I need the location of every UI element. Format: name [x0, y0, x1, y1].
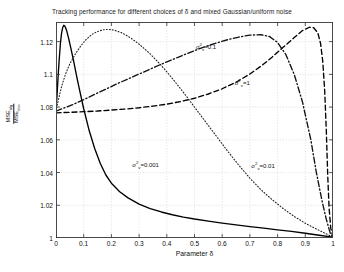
data-series-line: [56, 29, 333, 237]
y-axis-label-fraction: MSEalg MSEmin: [6, 103, 21, 124]
x-axis-tick-label: 0.7: [245, 240, 254, 247]
plot-svg: [56, 22, 333, 238]
series-annotation: σ2v=0.1: [196, 42, 216, 52]
y-axis-tick-label: 1.12: [40, 38, 53, 45]
x-axis-tick-label: 0.9: [301, 240, 310, 247]
y-axis-tick-label: 1.06: [40, 136, 53, 143]
y-axis-label-denominator: MSEmin: [15, 103, 22, 124]
x-axis-label: Parameter δ: [56, 250, 333, 257]
y-axis-tick-label: 1.1: [44, 71, 53, 78]
x-axis-tick-label: 0.3: [135, 240, 144, 247]
x-axis-tick-label: 1: [331, 240, 335, 247]
y-axis-tick-label: 1.02: [40, 202, 53, 209]
x-axis-tick-label: 0.6: [218, 240, 227, 247]
chart-title: Tracking performance for different choic…: [0, 8, 344, 15]
series-annotation: σ2v=1: [235, 78, 250, 88]
x-axis-tick-label: 0: [54, 240, 58, 247]
x-axis-tick-label: 0.5: [190, 240, 199, 247]
series-annotation: σ2v=0.001: [132, 160, 159, 170]
grid-lines: [56, 22, 333, 238]
series-annotation: σ2v=0.01: [251, 161, 274, 171]
plot-frame: [57, 23, 333, 238]
x-axis-tick-label: 0.8: [273, 240, 282, 247]
x-axis-tick-label: 0.1: [79, 240, 88, 247]
y-axis-tick-label: 1: [49, 235, 53, 242]
y-axis-label: MSEalg MSEmin: [6, 78, 21, 150]
figure-canvas: Tracking performance for different choic…: [0, 0, 344, 272]
x-axis-tick-label: 0.4: [162, 240, 171, 247]
y-axis-tick-label: 1.08: [40, 104, 53, 111]
x-axis-tick-label: 0.2: [107, 240, 116, 247]
y-axis-tick-labels: 11.021.041.061.081.11.12: [26, 22, 53, 238]
plot-area: σ2v=0.001σ2v=0.01σ2v=0.1σ2v=1: [56, 22, 333, 238]
y-axis-tick-label: 1.04: [40, 169, 53, 176]
